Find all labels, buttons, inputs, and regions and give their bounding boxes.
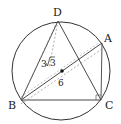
label-D: D — [53, 6, 62, 19]
length-label-3root3-radicand: 3 — [50, 58, 56, 68]
segment-DC — [58, 21, 101, 100]
label-A: A — [103, 32, 113, 45]
length-label-3root3-coef: 3 — [41, 59, 47, 69]
label-C: C — [105, 99, 113, 112]
length-label-6: 6 — [58, 78, 64, 88]
dashed-segment-B-to-A-lower — [21, 49, 102, 104]
center-point — [60, 69, 64, 73]
dashed-segment-B-to-A-upper — [21, 42, 100, 97]
segment-AC — [101, 43, 102, 100]
geometry-figure: D A B C 3 3 6 — [0, 0, 121, 124]
label-B: B — [8, 99, 16, 112]
